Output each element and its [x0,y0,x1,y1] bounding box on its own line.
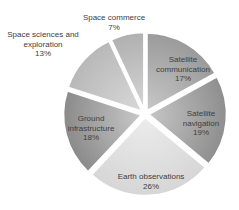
label-line: Space sciences and [7,30,79,40]
label-line: infrastructure [68,124,115,134]
label-line: Earth observations [118,172,185,182]
label-percent: 7% [83,23,145,33]
label-earth-observations: Earth observations 26% [118,172,185,191]
label-percent: 13% [7,49,79,59]
label-ground-infrastructure: Ground infrastructure 18% [68,114,115,143]
label-satellite-communication: Satellite communication 17% [156,55,210,84]
label-percent: 18% [68,133,115,143]
label-percent: 26% [118,182,185,192]
label-line: navigation [183,119,219,129]
label-line: Ground [68,114,115,124]
label-percent: 19% [183,128,219,138]
label-space-commerce: Space commerce 7% [83,13,145,32]
label-line: communication [156,65,210,75]
label-percent: 17% [156,74,210,84]
label-line: Satellite [183,109,219,119]
label-line: exploration [7,40,79,50]
label-line: Space commerce [83,13,145,23]
label-line: Satellite [156,55,210,65]
label-space-sciences-exploration: Space sciences and exploration 13% [7,30,79,59]
label-satellite-navigation: Satellite navigation 19% [183,109,219,138]
